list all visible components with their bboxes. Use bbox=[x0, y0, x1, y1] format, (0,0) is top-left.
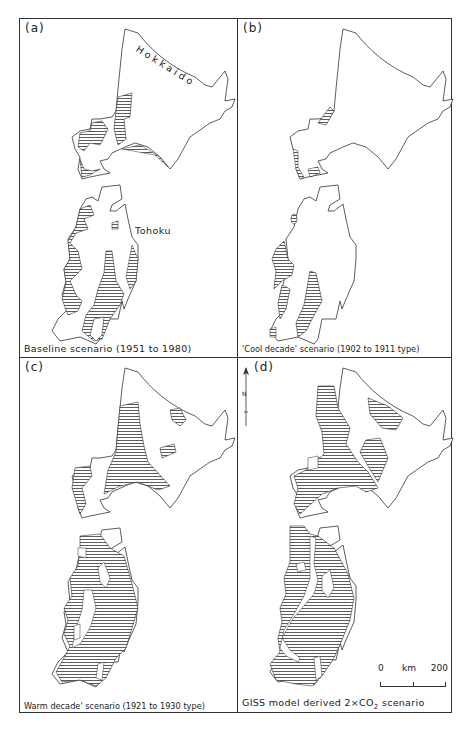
north-arrow: N bbox=[241, 366, 251, 426]
panel-label-c: (c) bbox=[25, 360, 44, 374]
scale-tick bbox=[413, 682, 414, 687]
panel-c-warm-decade: (c) Warm decade' scenario (1921 to 1930 … bbox=[20, 358, 236, 713]
scale-end: 200 bbox=[431, 663, 448, 673]
caption-b: 'Cool decade' scenario (1902 to 1911 typ… bbox=[242, 344, 419, 354]
panel-label-b: (b) bbox=[243, 21, 263, 35]
scale-tick bbox=[445, 682, 446, 687]
map-b bbox=[238, 19, 454, 356]
map-c bbox=[20, 358, 236, 713]
north-label: N bbox=[242, 390, 247, 397]
panel-a-baseline: (a) Hokkaido Tohoku Baseline scenario (1… bbox=[20, 19, 236, 356]
caption-c: Warm decade' scenario (1921 to 1930 type… bbox=[24, 701, 205, 711]
caption-a: Baseline scenario (1951 to 1980) bbox=[24, 343, 191, 354]
panel-label-a: (a) bbox=[25, 21, 45, 35]
map-d bbox=[238, 358, 454, 713]
caption-d: GISS model derived 2×CO2 scenario bbox=[242, 697, 425, 711]
panel-d-giss-2xco2: (d) N 0 km 200 GISS model derived 2×CO2 … bbox=[238, 358, 454, 713]
north-arrow-icon bbox=[241, 366, 251, 428]
scale-bar: 0 km 200 bbox=[378, 663, 448, 691]
map-a bbox=[20, 19, 236, 356]
scale-start: 0 bbox=[378, 663, 384, 673]
scale-tick bbox=[380, 682, 381, 687]
caption-d-main: GISS model derived 2×CO bbox=[242, 697, 374, 708]
figure-frame: (a) Hokkaido Tohoku Baseline scenario (1… bbox=[19, 18, 452, 713]
place-label-tohoku: Tohoku bbox=[135, 225, 171, 236]
caption-d-tail: scenario bbox=[379, 697, 425, 708]
scale-unit: km bbox=[402, 663, 416, 673]
panel-b-cool-decade: (b) 'Cool decade' scenario (1902 to 1911… bbox=[238, 19, 454, 356]
panel-label-d: (d) bbox=[254, 360, 274, 374]
